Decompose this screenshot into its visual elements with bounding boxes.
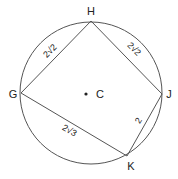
side-label-kg: 2√3 [61, 122, 79, 138]
circle [20, 22, 162, 164]
vertex-label-j: J [166, 88, 172, 100]
side-label-hj: 2√2 [125, 40, 143, 58]
circle-diagram: H J K G C 2√2 2√2 2 2√3 [0, 0, 178, 179]
side-label-jk: 2 [133, 116, 144, 125]
center-label-c: C [96, 88, 104, 100]
vertex-label-k: K [127, 160, 135, 172]
vertex-label-g: G [9, 88, 18, 100]
center-point [84, 92, 87, 95]
vertex-label-h: H [87, 5, 95, 17]
